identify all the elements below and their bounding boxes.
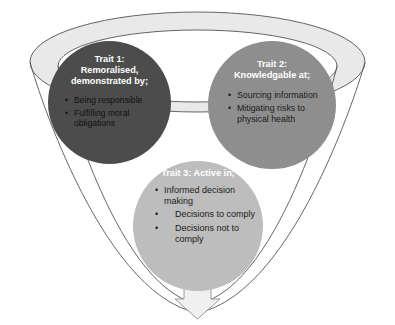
bullet-glyph: • <box>65 95 68 105</box>
list-item-label: Fulfilling moral obligations <box>65 108 165 129</box>
bubble-trait2-items: • Sourcing information • Mitigating risk… <box>214 90 330 125</box>
bullet-glyph: • <box>228 90 231 101</box>
list-item-label: Informed decision making <box>155 185 257 207</box>
list-item: • Decisions to comply <box>155 209 257 220</box>
bullet-glyph: • <box>65 108 68 118</box>
bullet-glyph: • <box>155 223 158 234</box>
list-item: • Being responsible <box>65 95 165 105</box>
bubble-trait2: Trait 2: Knowledgable at; • Sourcing inf… <box>208 41 336 169</box>
bullet-glyph: • <box>155 209 158 220</box>
list-item-label: Decisions not to comply <box>166 223 257 245</box>
list-item: • Sourcing information <box>228 90 330 101</box>
list-item-label: Sourcing information <box>228 90 330 101</box>
list-item: • Fulfilling moral obligations <box>65 108 165 129</box>
bubble-trait1-items: • Being responsible • Fulfilling moral o… <box>54 95 165 129</box>
bubble-trait2-content: Trait 2: Knowledgable at; • Sourcing inf… <box>208 59 336 127</box>
list-item-label: Being responsible <box>65 95 165 105</box>
bullet-glyph: • <box>155 185 158 196</box>
list-item: • Decisions not to comply <box>155 223 257 245</box>
list-item-label: Mitigating risks to physical health <box>228 103 330 124</box>
bubble-trait3-title: Trait 3: Active in; <box>139 168 257 179</box>
bubble-trait1-content: Trait 1: Remoralised, demonstrated by; •… <box>48 54 171 132</box>
bubble-trait2-title: Trait 2: Knowledgable at; <box>214 59 330 81</box>
funnel-diagram: Trait 1: Remoralised, demonstrated by; •… <box>0 0 395 325</box>
bubble-trait3: Trait 3: Active in; • Informed decision … <box>133 161 263 291</box>
list-item: • Informed decision making <box>155 185 257 207</box>
list-item-label: Decisions to comply <box>166 209 257 220</box>
bubble-trait3-content: Trait 3: Active in; • Informed decision … <box>133 168 263 248</box>
bubble-trait1: Trait 1: Remoralised, demonstrated by; •… <box>48 41 171 164</box>
bullet-glyph: • <box>228 103 231 114</box>
bubble-trait3-items: • Informed decision making • Decisions t… <box>139 185 257 245</box>
bubble-trait1-title: Trait 1: Remoralised, demonstrated by; <box>54 54 165 87</box>
list-item: • Mitigating risks to physical health <box>228 103 330 124</box>
